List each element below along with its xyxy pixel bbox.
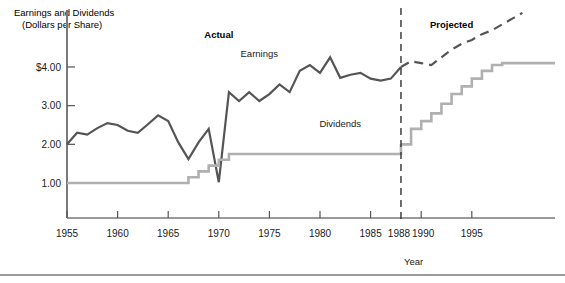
series-layer [67, 13, 555, 183]
x-tick-label: 1960 [106, 228, 129, 239]
earnings-dividends-chart: Earnings and Dividends (Dollars per Shar… [0, 0, 565, 283]
x-tick-label: 1980 [309, 228, 332, 239]
annotation-dividends: Dividends [319, 118, 361, 129]
y-tick-label: 1.00 [42, 178, 62, 189]
chart-container: Earnings and Dividends (Dollars per Shar… [0, 0, 565, 283]
y-tick-label: 3.00 [42, 100, 62, 111]
x-tick-label: 1970 [208, 228, 231, 239]
annotation-earnings: Earnings [241, 48, 279, 59]
annotation-actual: Actual [204, 29, 233, 40]
x-tick-label: 1965 [157, 228, 180, 239]
x-tick-label: 1955 [56, 228, 79, 239]
x-tick-label: 1995 [461, 228, 484, 239]
x-axis-ticks: 1955196019651970197519801985198819901995 [56, 211, 483, 239]
x-tick-label: 1988 [388, 228, 411, 239]
x-tick-label: 1975 [258, 228, 281, 239]
x-axis-label: Year [404, 256, 423, 267]
x-tick-label: 1990 [412, 228, 435, 239]
bottom-divider-rule [0, 274, 565, 276]
series-dividends-projected [401, 63, 555, 144]
chart-title-line1: Earnings and Dividends [14, 7, 115, 18]
annotation-projected: Projected [430, 19, 473, 30]
y-tick-label: 2.00 [42, 139, 62, 150]
x-tick-label: 1985 [359, 228, 382, 239]
y-axis-ticks: $4.003.002.001.00 [36, 62, 75, 189]
series-dividends-actual [67, 144, 401, 183]
y-tick-label: $4.00 [36, 62, 61, 73]
chart-title-line2: (Dollars per Share) [22, 19, 102, 30]
